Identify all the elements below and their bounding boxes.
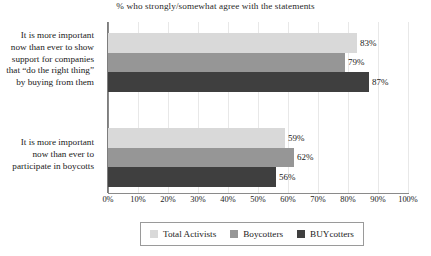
category-label-line: It is more important (0, 137, 94, 149)
bar-group-1: 59% 62% 56% (108, 128, 408, 187)
legend-swatch-icon (230, 230, 238, 238)
category-label-0: It is more importantnow than ever to sho… (0, 30, 94, 89)
x-tick-label: 0% (102, 195, 113, 204)
legend-label: BUYcotters (310, 229, 354, 239)
x-tick-label: 80% (340, 195, 355, 204)
category-label-line: now than ever to show (0, 42, 94, 54)
category-label-line: It is more important (0, 30, 94, 42)
bar-chart: % who strongly/somewhat agree with the s… (0, 0, 431, 256)
category-label-1: It is more importantnow than ever topart… (0, 137, 94, 172)
category-label-line: support for companies (0, 54, 94, 66)
bar-boycotters (108, 53, 345, 73)
bar-value-label: 79% (345, 57, 365, 67)
legend-item: BUYcotters (297, 229, 354, 239)
bar-row: 59% (108, 128, 408, 148)
gridline (408, 22, 409, 193)
bar-buycotters (108, 167, 276, 187)
category-label-line: by buying from them (0, 77, 94, 89)
plot-area: 83% 79% 87% 59% 62% 56% (108, 22, 408, 193)
bar-row: 79% (108, 53, 408, 73)
legend-item: Total Activists (150, 229, 216, 239)
x-tick-label: 50% (250, 195, 265, 204)
category-label-line: now than ever to (0, 149, 94, 161)
x-tick-label: 20% (160, 195, 175, 204)
category-label-line: participate in boycotts (0, 161, 94, 173)
bar-value-label: 62% (294, 152, 314, 162)
legend-swatch-icon (150, 230, 158, 238)
x-axis-tick-labels: 0%10%20%30%40%50%60%70%80%90%100% (0, 195, 431, 209)
x-tick-label: 70% (310, 195, 325, 204)
bar-buycotters (108, 72, 369, 92)
bar-value-label: 59% (285, 133, 305, 143)
bar-value-label: 83% (357, 38, 377, 48)
bar-row: 56% (108, 167, 408, 187)
bar-value-label: 56% (276, 172, 296, 182)
legend-label: Total Activists (163, 229, 216, 239)
x-tick-label: 60% (280, 195, 295, 204)
legend-label: Boycotters (243, 229, 283, 239)
bar-row: 83% (108, 33, 408, 53)
x-tick-label: 30% (190, 195, 205, 204)
bar-boycotters (108, 148, 294, 168)
bar-row: 87% (108, 72, 408, 92)
bar-group-0: 83% 79% 87% (108, 33, 408, 92)
legend-swatch-icon (297, 230, 305, 238)
bar-total-activists (108, 128, 285, 148)
x-tick-label: 10% (130, 195, 145, 204)
x-axis-line (108, 193, 409, 194)
x-tick-label: 40% (220, 195, 235, 204)
legend-item: Boycotters (230, 229, 283, 239)
x-tick-label: 90% (370, 195, 385, 204)
bar-row: 62% (108, 148, 408, 168)
chart-legend: Total ActivistsBoycottersBUYcotters (140, 222, 364, 246)
chart-title: % who strongly/somewhat agree with the s… (0, 1, 431, 11)
bar-total-activists (108, 33, 357, 53)
bar-value-label: 87% (369, 77, 389, 87)
category-label-line: that “do the right thing” (0, 65, 94, 77)
x-tick-label: 100% (398, 195, 418, 204)
